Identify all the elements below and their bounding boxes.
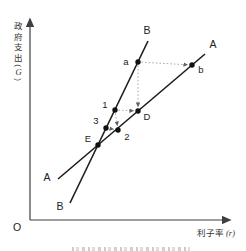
point-label-3: 3 <box>93 115 98 126</box>
point-label-a: a <box>123 56 129 67</box>
chart-content: AABBE321Dab <box>43 24 216 212</box>
y-axis-title: 政府支出(G) <box>11 21 26 82</box>
point-label-2: 2 <box>124 131 129 142</box>
x-axis-title-text: 利子率 <box>197 228 224 238</box>
curve-B <box>70 41 148 203</box>
point-label-E: E <box>85 133 91 144</box>
point-label-1: 1 <box>102 99 107 110</box>
y-axis-title-char: 支 <box>11 42 26 53</box>
economics-line-chart: AABBE321Dab <box>0 0 246 251</box>
y-axis-unit-paren: ) <box>16 72 21 87</box>
point-3 <box>103 125 108 130</box>
curve-label-B-start: B <box>56 200 63 212</box>
y-axis-title-char: 府 <box>11 32 26 43</box>
point-label-D: D <box>144 111 151 122</box>
y-axis-unit-paren: ( <box>16 58 21 73</box>
origin-label: O <box>13 221 21 233</box>
connector-1-to-2 <box>116 113 118 125</box>
curve-A <box>58 54 205 179</box>
point-1 <box>112 107 117 112</box>
x-axis-title: 利子率 (r) <box>197 226 235 238</box>
point-E <box>95 142 100 147</box>
point-a <box>135 59 140 64</box>
point-D <box>135 108 140 113</box>
connector-3-to-2 <box>109 129 113 130</box>
point-label-b: b <box>198 64 203 75</box>
x-axis-unit: (r) <box>226 228 235 238</box>
point-2 <box>115 127 120 132</box>
y-axis-title-char: 政 <box>11 21 26 32</box>
cut-off-caption <box>72 247 190 251</box>
curve-label-B-end: B <box>143 24 150 36</box>
connector-1-to-D <box>118 110 133 111</box>
point-b <box>189 62 194 67</box>
connector-a-to-b <box>141 62 187 65</box>
curve-label-A-start: A <box>43 171 50 183</box>
curve-label-A-end: A <box>209 38 216 50</box>
